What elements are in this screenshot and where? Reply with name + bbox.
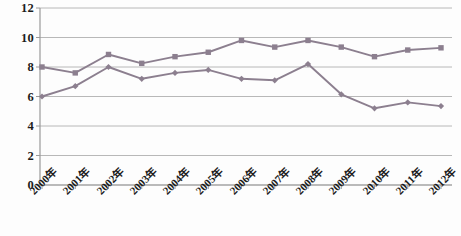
x-tick-label: 2000年: [28, 165, 59, 196]
x-tick-label: 2007年: [261, 165, 292, 196]
x-tick-label: 2006年: [228, 165, 259, 196]
x-tick-label: 2010年: [361, 165, 392, 196]
x-tick-label: 2003年: [128, 165, 159, 196]
x-tick-label: 2008年: [294, 165, 325, 196]
line-chart: 024681012 2000年2001年2002年2003年2004年2005年…: [0, 0, 461, 236]
x-axis-labels: 2000年2001年2002年2003年2004年2005年2006年2007年…: [0, 0, 461, 236]
x-tick-label: 2011年: [394, 166, 425, 197]
x-tick-label: 2012年: [427, 165, 458, 196]
x-tick-label: 2004年: [161, 165, 192, 196]
x-tick-label: 2009年: [327, 165, 358, 196]
x-tick-label: 2001年: [61, 165, 92, 196]
x-tick-label: 2002年: [95, 165, 126, 196]
x-tick-label: 2005年: [194, 165, 225, 196]
